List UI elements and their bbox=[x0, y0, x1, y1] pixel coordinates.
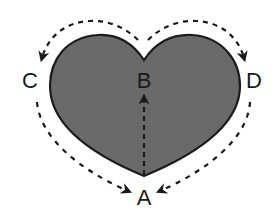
label-c: C bbox=[22, 68, 38, 93]
label-d: D bbox=[246, 68, 262, 93]
heart-diagram: B A C D bbox=[0, 0, 278, 222]
label-a: A bbox=[137, 185, 152, 210]
label-b: B bbox=[137, 68, 152, 93]
diagram-canvas: B A C D bbox=[0, 0, 278, 222]
